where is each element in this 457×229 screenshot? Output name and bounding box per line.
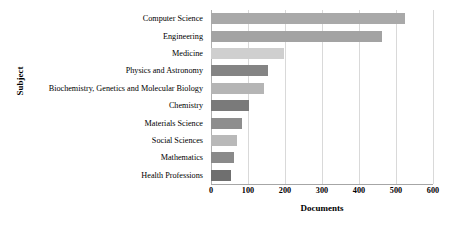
bar[interactable] [211,152,234,163]
bar[interactable] [211,170,231,181]
y-axis-tick-label: Physics and Astronomy [0,62,207,79]
bar[interactable] [211,100,249,111]
x-axis-tick-labels: 0100200300400500600 [211,186,433,200]
bar-row [211,45,433,62]
y-axis-tick-label: Engineering [0,27,207,44]
y-axis-tick-label: Medicine [0,45,207,62]
y-axis-tick-label: Health Professions [0,167,207,184]
x-axis-title: Documents [211,203,433,213]
y-axis-tick-label: Biochemistry, Genetics and Molecular Bio… [0,80,207,97]
bar-row [211,10,433,27]
bar-row [211,80,433,97]
y-axis-tick-label: Materials Science [0,114,207,131]
y-axis-tick-label: Chemistry [0,97,207,114]
x-axis-tick-label: 600 [427,186,439,195]
bar-row [211,132,433,149]
bar-row [211,62,433,79]
x-axis-line [211,184,433,185]
bar[interactable] [211,65,268,76]
bar[interactable] [211,83,264,94]
bar-row [211,114,433,131]
y-axis-tick-labels: Computer ScienceEngineeringMedicinePhysi… [0,10,207,184]
bar-row [211,167,433,184]
x-axis-tick-label: 300 [316,186,328,195]
bar-row [211,27,433,44]
bar-row [211,149,433,166]
bar[interactable] [211,31,382,42]
x-axis-tick-label: 0 [209,186,213,195]
bar[interactable] [211,135,237,146]
y-axis-tick-label: Social Sciences [0,132,207,149]
bar[interactable] [211,118,242,129]
bar-series [211,10,433,184]
y-axis-tick-label: Computer Science [0,10,207,27]
x-axis-tick-label: 100 [242,186,254,195]
x-axis-tick-label: 500 [390,186,402,195]
bar-chart: Subject Computer ScienceEngineeringMedic… [0,0,457,229]
bar[interactable] [211,48,284,59]
gridline-600 [433,10,434,184]
x-axis-tick-label: 400 [353,186,365,195]
bar-row [211,97,433,114]
x-axis-tick-label: 200 [279,186,291,195]
y-axis-tick-label: Mathematics [0,149,207,166]
bar[interactable] [211,13,405,24]
